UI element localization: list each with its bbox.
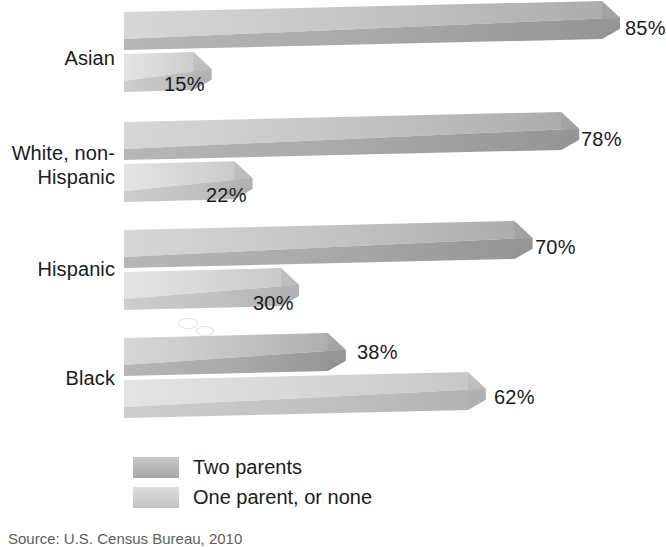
bar-two-parents — [124, 112, 579, 160]
category-label-black: Black — [66, 366, 115, 390]
value-label-hispanic-one-parent: 30% — [253, 293, 294, 313]
legend-label-two-parents: Two parents — [193, 457, 302, 477]
scan-speck-2 — [196, 326, 214, 336]
legend-swatch-two-parents — [133, 457, 179, 478]
legend-label-one-parent: One parent, or none — [193, 487, 372, 507]
value-label-black-two-parents: 38% — [357, 342, 398, 362]
legend-item-one-parent: One parent, or none — [133, 482, 372, 512]
legend: Two parents One parent, or none — [133, 452, 372, 512]
bar-two-parents — [124, 333, 346, 376]
category-label-white-non-hispanic: White, non- Hispanic — [12, 141, 115, 189]
value-label-black-one-parent: 62% — [494, 387, 535, 407]
value-label-asian-two-parents: 85% — [625, 18, 666, 38]
bar-two-parents — [124, 1, 620, 50]
value-label-white-two-parents: 78% — [581, 129, 622, 149]
legend-swatch-one-parent — [133, 487, 179, 508]
scan-speck — [178, 318, 198, 329]
bar-two-parents — [124, 221, 532, 268]
legend-item-two-parents: Two parents — [133, 452, 372, 482]
category-label-asian: Asian — [64, 46, 115, 70]
value-label-asian-one-parent: 15% — [164, 74, 205, 94]
value-label-hispanic-two-parents: 70% — [535, 237, 576, 257]
category-label-hispanic: Hispanic — [38, 257, 116, 281]
value-label-white-one-parent: 22% — [206, 185, 247, 205]
source-note: Source: U.S. Census Bureau, 2010 — [8, 530, 242, 547]
bar-one-parent — [124, 372, 486, 418]
